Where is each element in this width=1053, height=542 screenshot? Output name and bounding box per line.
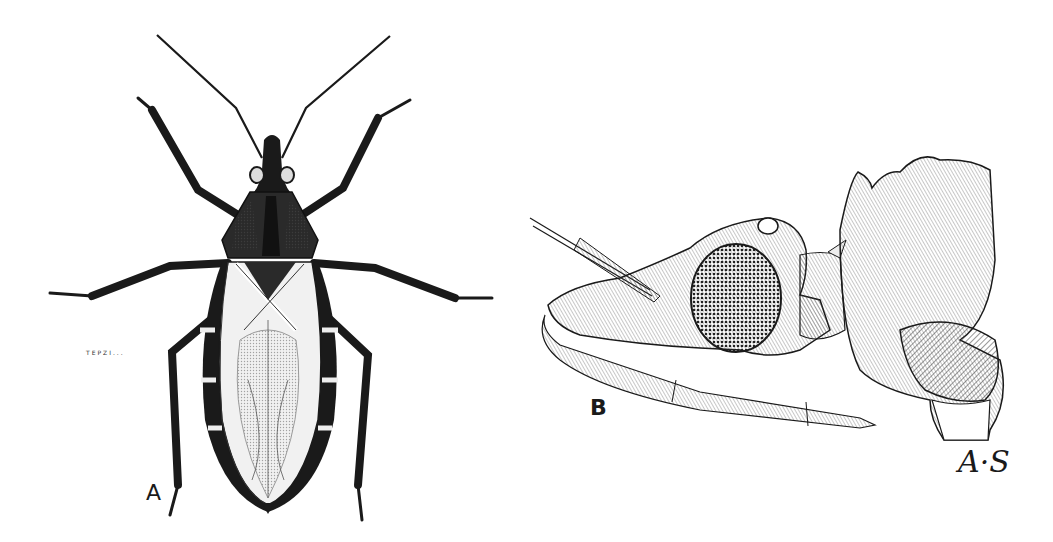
bug-pronotum (222, 192, 318, 258)
engraver-mark: TEPZI... (86, 349, 125, 356)
artist-signature: A·S (958, 444, 1010, 479)
bug-head (250, 135, 294, 192)
scientific-illustration: TEPZI... A B A·S (0, 0, 1053, 542)
panel-label-b: B (590, 395, 607, 420)
panel-a-bug-dorsal-drawing (0, 0, 1053, 542)
panel-label-a: A (146, 480, 161, 505)
